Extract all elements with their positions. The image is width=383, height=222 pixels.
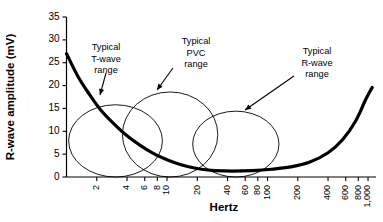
t-wave-annotation: TypicalT-waverange bbox=[91, 42, 121, 95]
x-tick-label: 60 bbox=[240, 185, 250, 195]
range-ellipse-pvc bbox=[122, 92, 217, 177]
chart-container: 05101520253035 2468102040608010020040060… bbox=[0, 0, 383, 222]
x-tick-label: 800 bbox=[353, 185, 363, 200]
x-tick-label: 100 bbox=[262, 185, 272, 200]
annotations-group: TypicalT-waverangeTypicalPVCrangeTypical… bbox=[91, 36, 332, 110]
y-tick-label: 30 bbox=[48, 33, 60, 44]
pvc-annotation: TypicalPVCrange bbox=[157, 36, 210, 90]
range-ellipse-r-wave bbox=[193, 111, 279, 177]
frequency-response-chart: 05101520253035 2468102040608010020040060… bbox=[0, 0, 383, 222]
x-tick-label: 2 bbox=[91, 185, 101, 190]
x-tick-label: 200 bbox=[292, 185, 302, 200]
y-tick-label: 5 bbox=[54, 148, 60, 159]
x-tick-label: 1,000 bbox=[362, 185, 372, 208]
x-tick-label: 80 bbox=[252, 185, 262, 195]
x-axis-ticks bbox=[97, 177, 368, 181]
y-tick-label: 25 bbox=[48, 56, 60, 67]
r-wave-annotation-arrow bbox=[245, 76, 294, 110]
r-wave-annotation-label: TypicalR-waverange bbox=[301, 46, 332, 79]
y-tick-label: 20 bbox=[48, 79, 60, 90]
pvc-annotation-arrowhead bbox=[157, 84, 163, 90]
range-ellipse-t-wave bbox=[69, 105, 163, 177]
y-axis-tick-labels: 05101520253035 bbox=[48, 11, 60, 182]
x-tick-label: 20 bbox=[192, 185, 202, 195]
x-tick-label: 10 bbox=[161, 185, 171, 195]
x-tick-label: 400 bbox=[322, 185, 332, 200]
y-tick-label: 10 bbox=[48, 125, 60, 136]
y-axis-title: R-wave amplitude (mV) bbox=[4, 34, 16, 161]
pvc-annotation-label: TypicalPVCrange bbox=[182, 36, 211, 69]
x-tick-label: 6 bbox=[139, 185, 149, 190]
r-wave-annotation: TypicalR-waverange bbox=[245, 46, 333, 110]
range-ellipses-group bbox=[69, 92, 279, 177]
r-wave-annotation-arrowhead bbox=[245, 104, 251, 110]
t-wave-annotation-label: TypicalT-waverange bbox=[91, 42, 121, 75]
x-axis-title: Hertz bbox=[210, 201, 239, 213]
x-tick-label: 600 bbox=[340, 185, 350, 200]
y-tick-label: 0 bbox=[54, 171, 60, 182]
x-tick-label: 4 bbox=[121, 185, 131, 190]
x-tick-label: 40 bbox=[222, 185, 232, 195]
y-tick-label: 15 bbox=[48, 102, 60, 113]
y-tick-label: 35 bbox=[48, 11, 60, 22]
x-tick-label: 8 bbox=[152, 185, 162, 190]
